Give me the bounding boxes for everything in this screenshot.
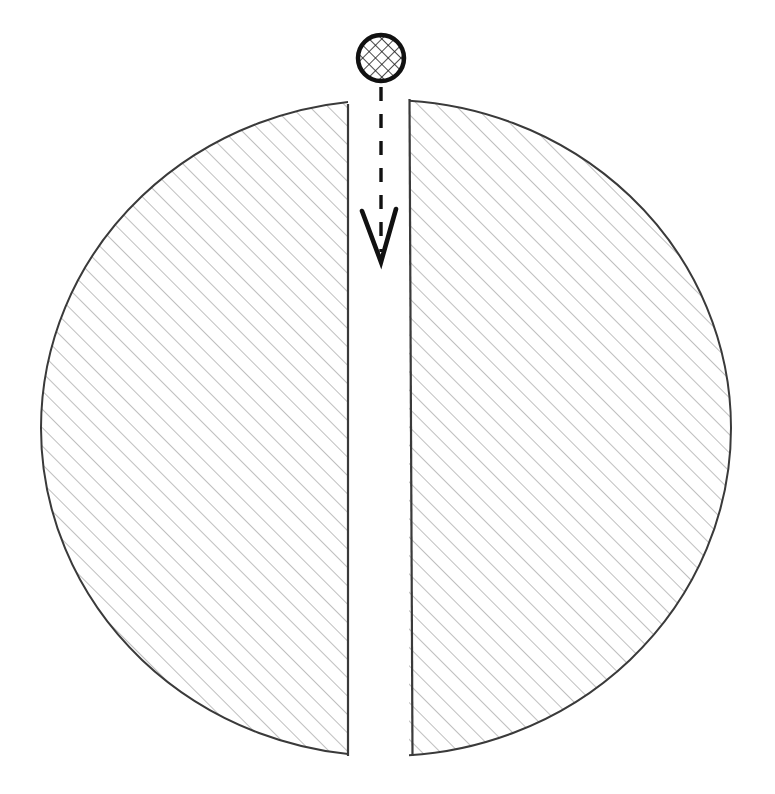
marker-circle-icon	[358, 35, 404, 81]
diagram-svg	[0, 0, 775, 794]
arrow-head-icon	[362, 209, 396, 262]
figure-canvas	[0, 0, 775, 794]
